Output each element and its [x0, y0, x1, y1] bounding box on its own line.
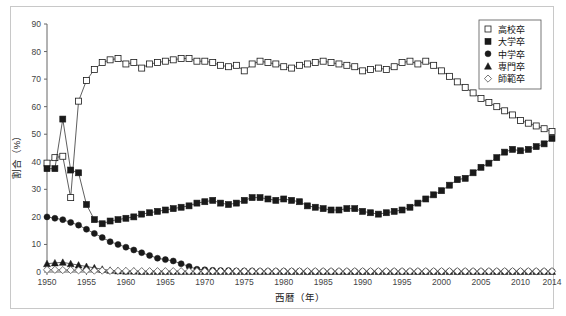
marker-filled-square [352, 206, 358, 212]
marker-open-square [462, 84, 468, 90]
marker-filled-square [423, 196, 429, 202]
x-tick-label: 1960 [116, 277, 135, 287]
marker-filled-square [454, 177, 460, 183]
marker-open-square [44, 160, 50, 166]
marker-filled-circle [131, 247, 137, 253]
marker-filled-square [383, 210, 389, 216]
marker-open-square [210, 60, 216, 66]
marker-filled-square [210, 197, 216, 203]
marker-open-square [186, 55, 192, 61]
marker-filled-square [202, 199, 208, 205]
marker-open-square [83, 77, 89, 83]
marker-filled-square [328, 207, 334, 213]
x-tick-label: 1995 [393, 277, 412, 287]
marker-open-square [194, 58, 200, 64]
series-高校卒 [44, 55, 555, 200]
marker-open-square [170, 57, 176, 63]
marker-open-square [241, 68, 247, 74]
series-中学卒 [44, 214, 555, 275]
legend-item-label: 師範卒 [498, 73, 525, 84]
marker-filled-square [257, 195, 263, 201]
marker-open-square [494, 104, 500, 110]
marker-open-square [328, 60, 334, 66]
marker-filled-square [391, 208, 397, 214]
marker-filled-square [375, 211, 381, 217]
marker-open-square [517, 117, 523, 123]
marker-filled-square [52, 166, 58, 172]
marker-filled-square [115, 217, 121, 223]
marker-open-square [60, 153, 66, 159]
y-tick-label: 10 [32, 239, 42, 249]
y-tick-label: 50 [32, 129, 42, 139]
x-tick-label: 2005 [472, 277, 491, 287]
marker-open-square [265, 60, 271, 66]
x-tick-label: 1975 [235, 277, 254, 287]
marker-open-square [202, 58, 208, 64]
y-tick-label: 30 [32, 184, 42, 194]
marker-open-square [320, 58, 326, 64]
marker-filled-triangle [59, 259, 66, 266]
x-tick-label: 1990 [353, 277, 372, 287]
marker-filled-square [336, 207, 342, 213]
marker-filled-square [399, 207, 405, 213]
marker-filled-square [281, 196, 287, 202]
marker-open-square [273, 61, 279, 67]
marker-open-square [257, 58, 263, 64]
marker-filled-circle [68, 219, 74, 225]
marker-filled-square [486, 160, 492, 166]
marker-filled-square [462, 175, 468, 181]
x-tick-label: 1955 [77, 277, 96, 287]
marker-filled-square [83, 201, 89, 207]
marker-filled-circle [123, 244, 129, 250]
marker-filled-circle [154, 255, 160, 261]
marker-filled-square [407, 204, 413, 210]
marker-open-square [68, 195, 74, 201]
marker-filled-circle [139, 250, 145, 256]
marker-filled-circle [60, 217, 66, 223]
y-tick-label: 70 [32, 74, 42, 84]
marker-open-square [233, 62, 239, 68]
marker-filled-circle [44, 214, 50, 220]
marker-filled-square [320, 206, 326, 212]
legend-item-label: 中学卒 [498, 49, 525, 60]
marker-open-square [336, 61, 342, 67]
marker-open-square [407, 58, 413, 64]
chart-legend[interactable]: 高校卒大学卒中学卒専門卒師範卒 [479, 20, 541, 89]
marker-open-square [415, 61, 421, 67]
x-tick-label: 2010 [511, 277, 530, 287]
marker-filled-circle [99, 235, 105, 241]
marker-filled-square [241, 197, 247, 203]
y-tick-label: 80 [32, 47, 42, 57]
x-tick-label: 2014 [543, 277, 562, 287]
marker-filled-square [297, 199, 303, 205]
chart-screenshot: 0102030405060708090 19501955196019651970… [0, 0, 566, 316]
marker-filled-square [233, 200, 239, 206]
line-chart: 0102030405060708090 19501955196019651970… [0, 0, 566, 316]
marker-filled-square [225, 201, 231, 207]
x-tick-label: 1980 [274, 277, 293, 287]
y-axis: 0102030405060708090 [32, 19, 47, 277]
marker-filled-circle [52, 215, 58, 221]
legend-item-label: 高校卒 [498, 24, 525, 35]
marker-filled-circle [107, 239, 113, 245]
y-tick-label: 90 [32, 19, 42, 29]
marker-open-square [154, 60, 160, 66]
marker-filled-circle [83, 226, 89, 232]
marker-filled-square [107, 218, 113, 224]
marker-filled-square [478, 164, 484, 170]
marker-filled-circle [76, 222, 82, 228]
marker-filled-square [186, 203, 192, 209]
legend-item-label: 大学卒 [498, 36, 525, 47]
marker-filled-square [415, 200, 421, 206]
marker-filled-circle [178, 261, 184, 267]
marker-filled-square [502, 149, 508, 155]
marker-filled-square [249, 195, 255, 201]
marker-filled-square [139, 211, 145, 217]
marker-open-diamond [59, 266, 66, 273]
x-tick-label: 2000 [432, 277, 451, 287]
marker-open-square [289, 65, 295, 71]
marker-filled-square [170, 206, 176, 212]
marker-open-square [533, 123, 539, 129]
marker-filled-circle [170, 258, 176, 264]
marker-filled-square [541, 141, 547, 147]
